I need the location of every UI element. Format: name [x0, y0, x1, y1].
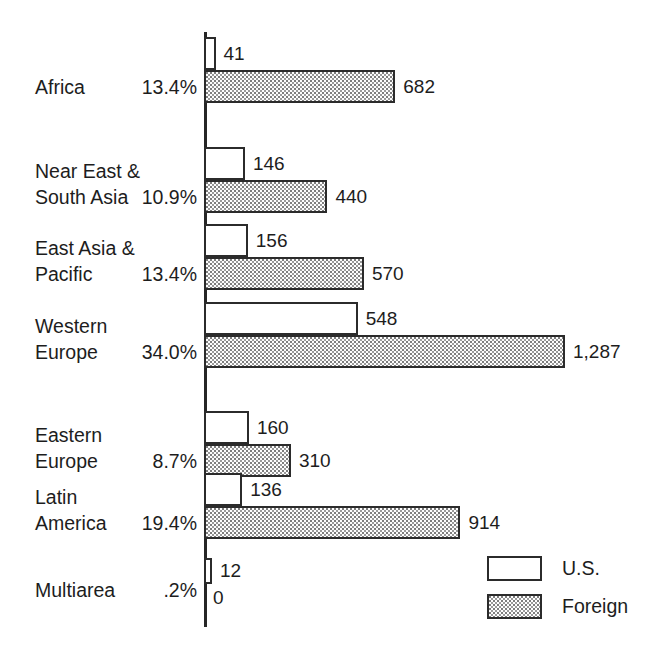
category-name-line: Eastern [35, 423, 102, 448]
bar-value-label-foreign: 310 [299, 451, 331, 470]
bar-value-label-us: 146 [253, 154, 285, 173]
category-percent: 10.9% [142, 185, 197, 210]
legend-row-foreign: Foreign [487, 592, 647, 630]
bar-foreign [204, 257, 364, 290]
bar-value-label-foreign: 0 [213, 588, 224, 607]
bar-value-label-us: 136 [250, 480, 282, 499]
bar-foreign [204, 180, 327, 213]
category-percent: 13.4% [142, 75, 197, 100]
category-name-line: America [35, 511, 107, 536]
bar-foreign [204, 70, 395, 103]
bar-us [204, 411, 249, 444]
category-percent: 13.4% [142, 262, 197, 287]
bar-value-label-us: 12 [220, 561, 241, 580]
category-percent: 8.7% [153, 449, 197, 474]
legend-label-foreign: Foreign [562, 592, 628, 620]
bar-foreign [204, 506, 460, 539]
category-name-line: Europe [35, 449, 98, 474]
category-percent: 34.0% [142, 340, 197, 365]
legend-label-us: U.S. [562, 554, 600, 582]
bar-value-label-us: 156 [256, 231, 288, 250]
bar-us [204, 224, 248, 257]
category-percent: .2% [163, 578, 197, 603]
bar-value-label-foreign: 682 [403, 77, 435, 96]
bar-foreign [204, 335, 565, 368]
category-percent: 19.4% [142, 511, 197, 536]
category-name-line: South Asia [35, 185, 128, 210]
category-name-line: Pacific [35, 262, 92, 287]
bar-value-label-foreign: 1,287 [573, 342, 621, 361]
bar-value-label-us: 548 [366, 309, 398, 328]
bar-value-label-us: 41 [224, 44, 245, 63]
legend-row-us: U.S. [487, 554, 647, 592]
bar-chart: Africa13.4%Near East &South Asia10.9%Eas… [0, 0, 652, 665]
bar-value-label-foreign: 914 [468, 513, 500, 532]
category-name-line: Western [35, 314, 107, 339]
legend-swatch-foreign-icon [487, 594, 542, 619]
bar-us [204, 37, 216, 70]
bar-value-label-foreign: 440 [335, 187, 367, 206]
category-name-line: Near East & [35, 159, 140, 184]
category-name-line: Europe [35, 340, 98, 365]
bar-us [204, 147, 245, 180]
bar-value-label-foreign: 570 [372, 264, 404, 283]
bar-value-label-us: 160 [257, 418, 289, 437]
legend: U.S. Foreign [487, 554, 647, 630]
bar-us [204, 558, 212, 584]
category-name-line: Africa [35, 75, 85, 100]
bar-us [204, 473, 242, 506]
bar-us [204, 302, 358, 335]
category-name-line: East Asia & [35, 236, 135, 261]
legend-swatch-us-icon [487, 556, 542, 581]
category-name-line: Latin [35, 485, 77, 510]
category-name-line: Multiarea [35, 578, 115, 603]
